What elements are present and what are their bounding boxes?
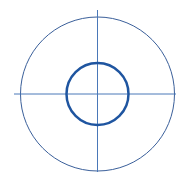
technical-drawing <box>0 0 179 174</box>
